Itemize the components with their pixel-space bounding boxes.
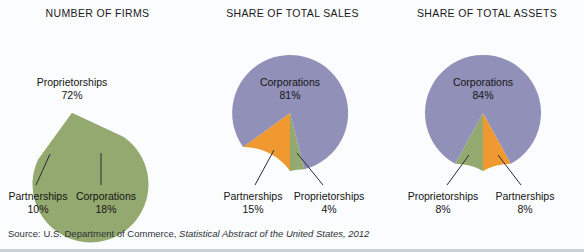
chart-panel-number-of-firms: NUMBER OF FIRMS Proprietorships 72% Part… — [0, 0, 195, 226]
pie-inside-label-value: 84% — [472, 89, 493, 101]
pie-callout-label-name-0: Partnerships — [224, 190, 283, 202]
pie-inside-label-name: Corporations — [260, 76, 320, 88]
pie-inside-label-name: Proprietorships — [37, 76, 108, 88]
pie-chart-share-of-total-assets: Corporations 84% Proprietorships 8% Part… — [390, 22, 584, 226]
source-prefix: Source: U.S. Department of Commerce, — [8, 228, 179, 239]
source-note: Source: U.S. Department of Commerce, Sta… — [8, 228, 369, 239]
pie-slice-proprietorships[interactable] — [32, 113, 148, 242]
chart-title: SHARE OF TOTAL ASSETS — [390, 7, 584, 19]
pie-callout-label-value-0: 15% — [242, 203, 263, 215]
pie-callout-label-value-0: 8% — [435, 203, 450, 215]
pie-chart-number-of-firms: Proprietorships 72% Partnerships 10% Cor… — [0, 22, 195, 226]
chart-panel-share-of-total-sales: SHARE OF TOTAL SALES Corporations 81% Pa… — [195, 0, 390, 226]
source-title-italic: Statistical Abstract of the United State… — [179, 228, 369, 239]
pie-chart-share-of-total-sales: Corporations 81% Partnerships 15% Propri… — [195, 22, 390, 226]
pie-callout-label-value-1: 8% — [517, 203, 532, 215]
pie-callout-label-value-1: 18% — [95, 203, 116, 215]
chart-title: SHARE OF TOTAL SALES — [195, 7, 390, 19]
pie-callout-label-value-0: 10% — [27, 203, 48, 215]
pie-callout-label-name-0: Partnerships — [9, 190, 68, 202]
pie-chart-figure: NUMBER OF FIRMS Proprietorships 72% Part… — [0, 0, 584, 252]
leader-line-partnerships — [255, 150, 274, 185]
chart-title: NUMBER OF FIRMS — [0, 7, 195, 19]
chart-panel-share-of-total-assets: SHARE OF TOTAL ASSETS Corporations 84% P… — [390, 0, 584, 226]
pie-inside-label-value: 72% — [61, 89, 82, 101]
pie-inside-label-value: 81% — [279, 89, 300, 101]
pie-callout-label-name-1: Proprietorships — [294, 190, 365, 202]
pie-callout-label-name-1: Partnerships — [496, 190, 555, 202]
pie-callout-label-value-1: 4% — [321, 203, 336, 215]
pie-inside-label-name: Corporations — [453, 76, 513, 88]
pie-callout-label-name-0: Proprietorships — [408, 190, 479, 202]
pie-callout-label-name-1: Corporations — [76, 190, 136, 202]
